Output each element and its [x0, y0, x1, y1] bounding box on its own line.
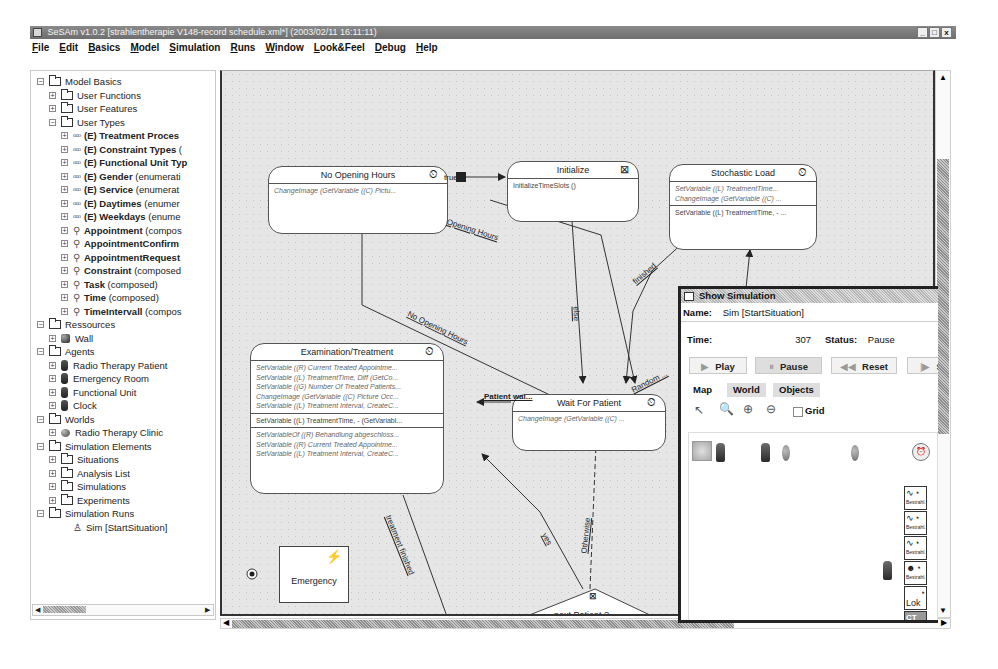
state-stochastic-load[interactable]: Stochastic Load⏲SetVariable ((L) Treatme…	[669, 164, 817, 250]
expand-icon[interactable]: +	[61, 227, 68, 234]
tree-item[interactable]: +⚲TimeIntervall (compos	[61, 305, 182, 318]
expand-icon[interactable]: +	[49, 362, 56, 369]
expand-icon[interactable]: +	[61, 213, 68, 220]
tree-item[interactable]: +Functional Unit	[49, 386, 136, 399]
state-action[interactable]: SetVariable ((L) Treatment Interval, Cre…	[256, 449, 438, 459]
tree-item[interactable]: +⚲Task (composed)	[61, 278, 158, 291]
state-action[interactable]: InitializeTimeSlots ()	[513, 181, 633, 191]
tree-item[interactable]: +Radio Therapy Patient	[49, 359, 167, 372]
reset-button[interactable]: ◀◀Reset	[831, 357, 897, 374]
pointer-tool-icon[interactable]: ↖	[694, 403, 704, 417]
tree-item[interactable]: −User Types	[49, 116, 125, 129]
expand-icon[interactable]: +	[49, 470, 56, 477]
collapse-icon[interactable]: −	[37, 348, 44, 355]
emergency-note[interactable]: ⚡ Emergency	[279, 546, 349, 603]
expand-icon[interactable]: +	[61, 281, 68, 288]
state-action[interactable]: SetVariable ((L) Treatment Interval, Cre…	[256, 401, 438, 411]
tree-item[interactable]: +Wall	[49, 332, 93, 345]
tree-item[interactable]: −Simulation Elements	[37, 440, 152, 453]
clock-agent[interactable]: ⏰	[912, 443, 930, 461]
tree-item[interactable]: +ooo(E) Daytimes (enumer	[61, 197, 180, 210]
menu-window[interactable]: Window	[265, 40, 303, 55]
name-value[interactable]: Sim [StartSituation]	[723, 307, 804, 318]
expand-icon[interactable]: +	[49, 375, 56, 382]
functional-unit-agent[interactable]: ∿◔Bestrahl.	[904, 511, 927, 535]
functional-unit-agent[interactable]: ∿◔Bestrahl.	[904, 536, 927, 560]
show-simulation-window[interactable]: Show Simulation Name: Sim [StartSituatio…	[678, 286, 938, 623]
expand-icon[interactable]: +	[61, 200, 68, 207]
state-action[interactable]: SetVariable ((R) Current Treated Appoint…	[256, 363, 438, 373]
scroll-down-icon[interactable]: ▼	[939, 606, 947, 615]
state-examination-treatment[interactable]: Examination/Treatment⏲SetVariable ((R) C…	[250, 343, 444, 494]
state-initialize[interactable]: Initialize⊠InitializeTimeSlots ()	[507, 161, 639, 222]
tree-item[interactable]: +⚲AppointmentRequest	[61, 251, 180, 264]
patient-agent[interactable]	[883, 561, 892, 580]
tab-objects[interactable]: Objects	[773, 383, 820, 397]
tree-item[interactable]: +⚲Time (composed)	[61, 291, 159, 304]
expand-icon[interactable]: +	[61, 173, 68, 180]
menu-simulation[interactable]: Simulation	[169, 40, 220, 55]
menu-model[interactable]: Model	[130, 40, 159, 55]
state-no-opening-hours[interactable]: No Opening Hours⏲ChangeImage (GetVariabl…	[268, 166, 448, 234]
expand-icon[interactable]: +	[61, 267, 68, 274]
state-action[interactable]: SetVariable ((L) TreatmentTime, - ...	[675, 208, 811, 218]
tree-item[interactable]: +User Features	[49, 102, 137, 115]
patient-agent[interactable]	[761, 443, 770, 462]
tree-item[interactable]: +ooo(E) Functional Unit Typ	[61, 156, 187, 169]
tree-item[interactable]: +Radio Therapy Clinic	[49, 426, 163, 439]
functional-unit-agent[interactable]: ∿◔Bestrahl.	[904, 486, 927, 510]
pause-button[interactable]: ⏸Pause	[755, 357, 822, 374]
minimize-button[interactable]: _	[917, 27, 928, 38]
functional-unit-agent[interactable]: ☻◔Bestrahl.	[904, 561, 927, 585]
menu-file[interactable]: File	[32, 40, 49, 55]
menu-edit[interactable]: Edit	[59, 40, 78, 55]
tree-item[interactable]: +ooo(E) Gender (enumerati	[61, 170, 181, 183]
tab-map[interactable]: Map	[687, 383, 718, 397]
state-action[interactable]: SetVariableOf ((R) Behandlung abgeschlos…	[256, 430, 438, 440]
simulation-window-titlebar[interactable]: Show Simulation	[681, 289, 938, 303]
expand-icon[interactable]: +	[61, 308, 68, 315]
scroll-thumb[interactable]	[937, 159, 949, 434]
tree-item[interactable]: +ooo(E) Weekdays (enume	[61, 210, 180, 223]
tree-item[interactable]: +⚲Constraint (composed	[61, 264, 181, 277]
state-action[interactable]: SetVariable ((G) Number Of Treated Patie…	[256, 382, 438, 392]
expand-icon[interactable]: +	[61, 254, 68, 261]
state-action[interactable]: SetVariable ((L) TreatmentTime...	[675, 184, 811, 194]
close-button[interactable]: x	[941, 27, 952, 38]
state-action[interactable]: ChangeImage (GetVariable ((C) ...	[518, 414, 660, 424]
tree-item[interactable]: −Agents	[37, 345, 95, 358]
tree-item[interactable]: +Emergency Room	[49, 372, 149, 385]
tree-item[interactable]: −Ressources	[37, 318, 115, 331]
functional-unit-agent[interactable]: ◔Lok	[904, 586, 927, 610]
wall-tile[interactable]	[692, 441, 712, 461]
tree-item[interactable]: −Worlds	[37, 413, 94, 426]
scroll-left-icon[interactable]: ◀	[35, 605, 40, 615]
model-tree[interactable]: ◀ ▶ −Model Basics+User Functions+User Fe…	[30, 70, 216, 620]
state-action[interactable]: SetVariable ((L) TreatmentTime, - (GetVa…	[256, 416, 438, 426]
collapse-icon[interactable]: −	[37, 78, 44, 85]
tree-item[interactable]: +⚲Appointment (compos	[61, 224, 182, 237]
expand-icon[interactable]: +	[49, 335, 56, 342]
edge-otherwise[interactable]	[590, 443, 596, 589]
expand-icon[interactable]: +	[49, 92, 56, 99]
menu-debug[interactable]: Debug	[375, 40, 406, 55]
expand-icon[interactable]: +	[49, 402, 56, 409]
patient-agent[interactable]	[716, 443, 725, 462]
scroll-right-icon[interactable]: ▶	[941, 618, 947, 627]
edge-opening-hours[interactable]	[490, 200, 635, 383]
expand-icon[interactable]: +	[49, 497, 56, 504]
tree-item[interactable]: +⚲AppointmentConfirm	[61, 237, 179, 250]
menu-lookfeel[interactable]: Look&Feel	[314, 40, 365, 55]
expand-icon[interactable]: +	[49, 105, 56, 112]
state-action[interactable]: SetVariable ((L) TreatmentTime, Diff (Ge…	[256, 373, 438, 383]
expand-icon[interactable]: +	[61, 146, 68, 153]
collapse-icon[interactable]: −	[37, 443, 44, 450]
scroll-thumb[interactable]	[232, 620, 734, 628]
functional-unit-agent[interactable]: CT	[904, 611, 927, 623]
simulation-map[interactable]: ⏰ ∿◔Bestrahl. ∿◔Bestrahl. ∿◔Bestrahl. ☻◔…	[688, 432, 938, 623]
tree-item[interactable]: +User Functions	[49, 89, 141, 102]
scroll-left-icon[interactable]: ◀	[223, 618, 229, 627]
tree-item[interactable]: +Simulations	[49, 480, 126, 493]
step-button[interactable]: |▶S	[907, 357, 938, 374]
maximize-button[interactable]: □	[929, 27, 940, 38]
